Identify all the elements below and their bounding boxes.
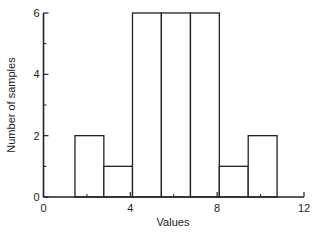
histogram-bar	[219, 166, 248, 197]
x-tick-label: 4	[127, 202, 133, 214]
y-tick-label: 4	[33, 68, 39, 80]
histogram-chart: 048120246 Values Number of samples	[0, 0, 321, 234]
histogram-bar	[75, 136, 104, 197]
histogram-bar	[133, 13, 162, 197]
histogram-bar	[161, 13, 190, 197]
x-tick-label: 12	[298, 202, 310, 214]
histogram-bar	[190, 13, 219, 197]
y-axis-label: Number of samples	[5, 57, 17, 153]
x-axis-label: Values	[157, 216, 190, 228]
y-tick-label: 6	[33, 7, 39, 19]
histogram-bars	[75, 13, 277, 197]
y-tick-label: 2	[33, 130, 39, 142]
histogram-bar	[104, 166, 133, 197]
x-tick-label: 8	[214, 202, 220, 214]
x-tick-label: 0	[40, 202, 46, 214]
histogram-bar	[248, 136, 277, 197]
y-tick-label: 0	[33, 191, 39, 203]
